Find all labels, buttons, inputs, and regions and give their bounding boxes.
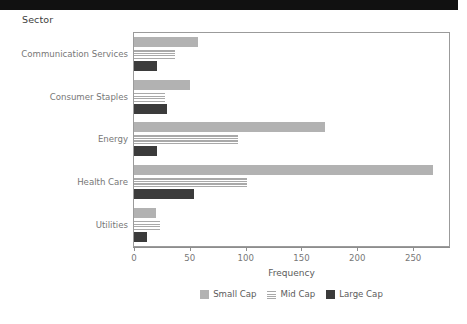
x-tick bbox=[246, 247, 247, 251]
bar-mid-cap bbox=[134, 49, 175, 59]
legend-label: Small Cap bbox=[213, 289, 256, 299]
x-tick bbox=[190, 247, 191, 251]
legend-label: Mid Cap bbox=[280, 289, 315, 299]
bar-group: Communication Services bbox=[134, 33, 450, 76]
category-label: Consumer Staples bbox=[0, 92, 128, 102]
category-label: Utilities bbox=[0, 220, 128, 230]
legend-item-large-cap[interactable]: Large Cap bbox=[326, 289, 383, 299]
x-tick-label: 0 bbox=[131, 253, 136, 263]
plot-area: Communication ServicesConsumer StaplesEn… bbox=[134, 33, 450, 246]
bar-small-cap bbox=[134, 80, 190, 90]
x-tick-label: 100 bbox=[237, 253, 253, 263]
bar-small-cap bbox=[134, 165, 433, 175]
legend-item-small-cap[interactable]: Small Cap bbox=[200, 289, 256, 299]
bar-mid-cap bbox=[134, 177, 247, 187]
bar-small-cap bbox=[134, 208, 156, 218]
bar-small-cap bbox=[134, 37, 198, 47]
bar-group: Energy bbox=[134, 118, 450, 161]
bar-mid-cap bbox=[134, 92, 165, 102]
bar-large-cap bbox=[134, 146, 157, 156]
bar-group: Health Care bbox=[134, 161, 450, 204]
legend-swatch-icon bbox=[267, 290, 276, 299]
bar-mid-cap bbox=[134, 134, 238, 144]
bar-large-cap bbox=[134, 189, 194, 199]
category-label: Health Care bbox=[0, 177, 128, 187]
bar-group: Consumer Staples bbox=[134, 76, 450, 119]
legend-swatch-icon bbox=[200, 290, 209, 299]
x-axis: 050100150200250 bbox=[133, 247, 450, 248]
bar-small-cap bbox=[134, 122, 325, 132]
bar-mid-cap bbox=[134, 220, 160, 230]
x-tick-label: 200 bbox=[349, 253, 365, 263]
top-black-bar bbox=[0, 0, 458, 10]
x-axis-title: Frequency bbox=[133, 268, 450, 278]
x-tick-label: 150 bbox=[293, 253, 309, 263]
x-tick bbox=[301, 247, 302, 251]
bar-group: Utilities bbox=[134, 203, 450, 246]
category-label: Communication Services bbox=[0, 49, 128, 59]
chart-legend: Small CapMid CapLarge Cap bbox=[133, 289, 450, 299]
bar-large-cap bbox=[134, 232, 147, 242]
bar-large-cap bbox=[134, 104, 167, 114]
x-tick-label: 250 bbox=[405, 253, 421, 263]
category-label: Energy bbox=[0, 134, 128, 144]
x-tick bbox=[134, 247, 135, 251]
x-tick bbox=[413, 247, 414, 251]
x-tick-label: 50 bbox=[184, 253, 195, 263]
legend-swatch-icon bbox=[326, 290, 335, 299]
bar-large-cap bbox=[134, 61, 157, 71]
legend-label: Large Cap bbox=[339, 289, 383, 299]
panel-title: Sector bbox=[22, 14, 53, 25]
legend-item-mid-cap[interactable]: Mid Cap bbox=[267, 289, 315, 299]
x-tick bbox=[357, 247, 358, 251]
